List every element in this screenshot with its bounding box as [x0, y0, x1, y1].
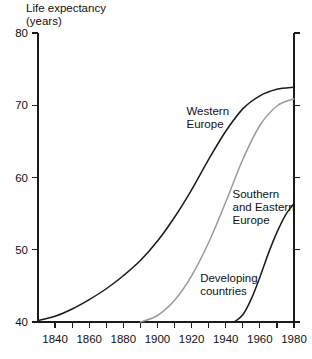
- x-tick-label: 1920: [179, 333, 205, 345]
- y-tick-label: 70: [15, 99, 28, 111]
- life-expectancy-line-chart: Life expectancy(years)405060708018401860…: [0, 0, 312, 359]
- series-label-southern-eastern-europe: Southernand EasternEurope: [233, 188, 295, 226]
- y-tick-label: 80: [15, 27, 28, 39]
- y-tick-label: 60: [15, 172, 28, 184]
- x-tick-label: 1960: [247, 333, 273, 345]
- chart-page: Life expectancy(years)405060708018401860…: [0, 0, 312, 359]
- x-tick-label: 1940: [213, 333, 239, 345]
- x-tick-label: 1880: [111, 333, 137, 345]
- series-label-developing-countries: Developingcountries: [200, 272, 258, 297]
- y-tick-label: 40: [15, 316, 28, 328]
- series-label-western-europe: WesternEurope: [186, 105, 229, 130]
- chart-title: Life expectancy: [26, 2, 106, 14]
- chart-subtitle: (years): [26, 15, 62, 27]
- x-tick-label: 1900: [145, 333, 171, 345]
- y-tick-label: 50: [15, 244, 28, 256]
- x-tick-label: 1840: [42, 333, 68, 345]
- x-tick-label: 1980: [281, 333, 307, 345]
- x-tick-label: 1860: [76, 333, 102, 345]
